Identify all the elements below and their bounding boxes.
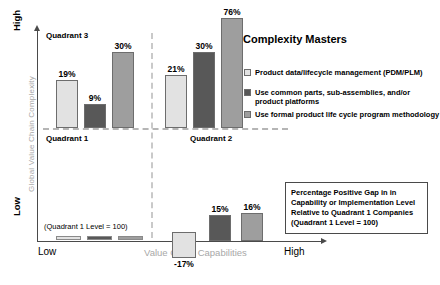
legend-title: Complexity Masters <box>243 33 347 45</box>
baseline-swatch-lifecycle-methodology <box>118 236 143 240</box>
x-axis-arrow-icon <box>321 238 327 244</box>
baseline-note: (Quadrant 1 Level = 100) <box>44 222 128 231</box>
y-axis-arrow-icon <box>34 25 40 31</box>
quadrant-label-3: Quadrant 3 <box>46 31 88 40</box>
bar-group3-common-parts <box>209 215 231 241</box>
legend-item-pdm-plm[interactable]: Product data/lifecycle management (PDM/P… <box>244 68 440 77</box>
y-axis-tick-high: High <box>11 10 22 31</box>
quadrant-label-2: Quadrant 2 <box>190 134 232 143</box>
note-box-text: Percentage Positive Gap in in Capability… <box>291 188 425 229</box>
bar-group1-pdm-plm <box>56 80 78 128</box>
y-axis-tick-low: Low <box>11 197 22 216</box>
bar-label-group2-pdm-plm: 21% <box>165 64 187 74</box>
baseline-swatch-common-parts <box>87 236 112 240</box>
x-axis-tick-low: Low <box>38 246 56 257</box>
legend-swatch-dark-icon <box>244 89 251 96</box>
legend-swatch-medium-icon <box>244 111 251 118</box>
bar-label-group3-common-parts: 15% <box>209 204 231 214</box>
legend-item-common-parts[interactable]: Use common parts, sub-assemblies, and/or… <box>244 88 440 107</box>
vertical-quadrant-divider <box>151 33 153 238</box>
y-axis-line <box>37 30 38 242</box>
bar-label-group3-pdm-plm-negative: -17% <box>170 259 198 269</box>
bar-group1-common-parts <box>84 104 106 128</box>
quadrant-label-1: Quadrant 1 <box>46 134 88 143</box>
baseline-swatch-pdm-plm <box>56 236 81 240</box>
bar-group1-lifecycle-methodology <box>112 52 134 128</box>
x-axis-tick-high: High <box>284 246 305 257</box>
legend-item-lifecycle-methodology[interactable]: Use formal product life cycle program me… <box>244 110 440 119</box>
bar-group3-pdm-plm-negative <box>172 232 196 258</box>
bar-group2-lifecycle-methodology <box>221 18 243 128</box>
bar-label-group2-lifecycle-methodology: 76% <box>221 7 243 17</box>
bar-label-group2-common-parts: 30% <box>193 41 215 51</box>
bar-label-group1-lifecycle-methodology: 30% <box>112 41 134 51</box>
legend-label-common-parts: Use common parts, sub-assemblies, and/or… <box>255 88 440 107</box>
legend-label-lifecycle-methodology: Use formal product life cycle program me… <box>255 110 440 119</box>
horizontal-quadrant-divider <box>43 128 288 130</box>
bar-group2-common-parts <box>193 52 215 128</box>
legend-swatch-light-icon <box>244 69 251 76</box>
bar-label-group1-pdm-plm: 19% <box>56 69 78 79</box>
y-axis-title: Global Value Chain Complexity <box>27 76 36 192</box>
bar-label-group3-lifecycle-methodology: 16% <box>241 202 263 212</box>
legend-label-pdm-plm: Product data/lifecycle management (PDM/P… <box>255 68 440 77</box>
bar-group2-pdm-plm <box>165 75 187 128</box>
bar-group3-lifecycle-methodology <box>241 213 263 241</box>
bar-label-group1-common-parts: 9% <box>84 93 106 103</box>
